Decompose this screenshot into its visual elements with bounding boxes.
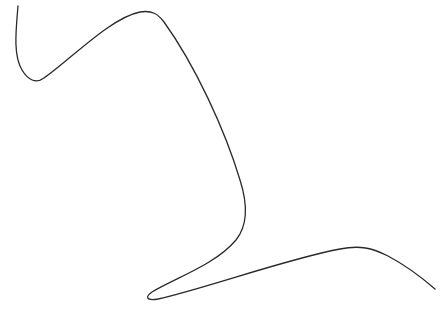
drawing-canvas xyxy=(0,0,445,311)
background xyxy=(0,0,445,311)
